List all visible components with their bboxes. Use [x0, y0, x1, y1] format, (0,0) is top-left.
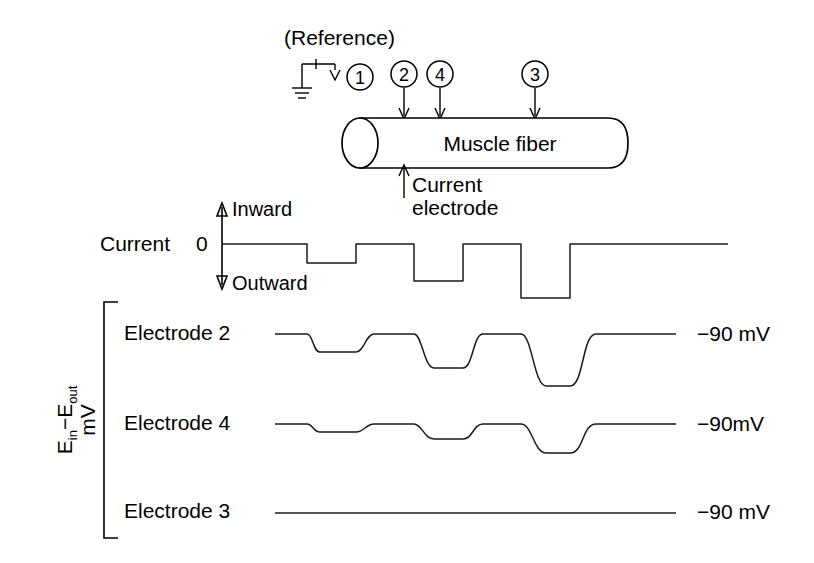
current-panel-label: Current — [100, 232, 170, 255]
electrode-number-4: 4 — [435, 65, 445, 85]
axis-label-minusE: −E — [53, 404, 76, 430]
current-zero-label: 0 — [196, 232, 208, 255]
trace-label-electrode-2: Electrode 2 — [124, 321, 230, 344]
muscle-fiber-label: Muscle fiber — [443, 132, 556, 155]
reference-electrode-wire — [302, 59, 340, 80]
trace-electrode-4 — [275, 424, 676, 453]
current-axis — [217, 203, 227, 289]
electrode-number-3: 3 — [530, 65, 540, 85]
electrode-number-1: 1 — [355, 68, 365, 88]
electrode-marker-3[interactable]: 3 — [522, 61, 548, 119]
electrode-marker-2[interactable]: 2 — [391, 61, 417, 119]
current-electrode-label-line2: electrode — [412, 196, 498, 219]
voltage-panel-bracket — [104, 302, 118, 538]
axis-label-out: out — [65, 385, 80, 403]
current-electrode-pointer: Current electrode — [399, 165, 498, 219]
trace-label-electrode-3: Electrode 3 — [124, 499, 230, 522]
current-axis-down-label: Outward — [232, 272, 308, 294]
trace-label-electrode-4: Electrode 4 — [124, 411, 231, 434]
axis-label-E: E — [53, 440, 76, 454]
electrophysiology-figure: (Reference) 1 2 4 — [0, 0, 814, 563]
trace-value-electrode-2: −90 mV — [697, 322, 770, 345]
electrode-marker-4[interactable]: 4 — [427, 61, 453, 119]
muscle-fiber: Muscle fiber — [342, 118, 628, 168]
electrode-marker-1[interactable]: 1 — [347, 64, 373, 90]
trace-electrode-2 — [275, 334, 676, 386]
trace-value-electrode-4: −90mV — [697, 412, 764, 435]
trace-value-electrode-3: −90 mV — [697, 500, 770, 523]
voltage-axis-units: mV — [76, 404, 99, 436]
current-axis-up-label: Inward — [232, 198, 292, 220]
reference-label: (Reference) — [284, 26, 395, 49]
ground-symbol — [292, 64, 312, 98]
current-electrode-label-line1: Current — [412, 173, 482, 196]
figure-container: (Reference) 1 2 4 — [0, 0, 814, 563]
axis-units-mV: mV — [76, 404, 99, 436]
electrode-number-2: 2 — [399, 65, 409, 85]
